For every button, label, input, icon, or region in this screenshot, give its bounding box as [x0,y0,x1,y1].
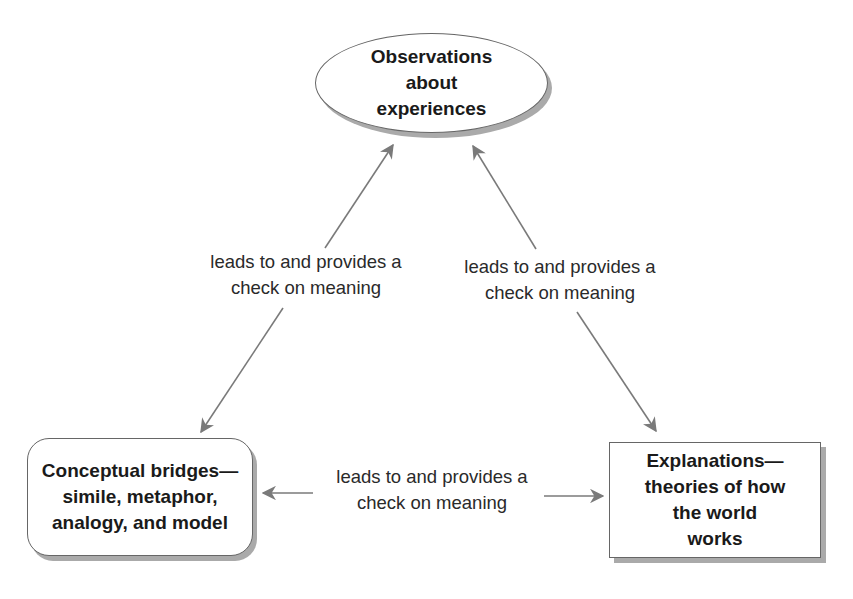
arrow-right-down [577,312,656,431]
node-text-line: Conceptual bridges— [42,458,238,484]
edge-label-bottom: leads to and provides a check on meaning [312,464,552,516]
edge-label-line: check on meaning [440,280,680,306]
node-observations: Observations about experiences [315,33,548,133]
node-text-line: about [406,70,458,96]
edge-label-line: leads to and provides a [186,249,426,275]
node-explanations: Explanations— theories of how the world … [609,442,821,558]
node-text-line: Explanations— [646,448,783,474]
edge-label-left: leads to and provides a check on meaning [186,249,426,301]
node-text-line: Observations [371,44,492,70]
edge-label-line: leads to and provides a [312,464,552,490]
edge-label-line: check on meaning [312,490,552,516]
node-text-line: the world [673,500,757,526]
node-text-line: experiences [377,96,487,122]
node-text-line: theories of how [645,474,785,500]
node-text-line: simile, metaphor, [62,484,217,510]
arrow-left-down [201,308,283,432]
node-conceptual-bridges: Conceptual bridges— simile, metaphor, an… [27,438,253,556]
edge-label-line: leads to and provides a [440,254,680,280]
node-text-line: works [688,526,743,552]
edge-label-right: leads to and provides a check on meaning [440,254,680,306]
edge-label-line: check on meaning [186,275,426,301]
arrow-left-up [325,145,393,248]
node-text-line: analogy, and model [52,510,228,536]
arrow-right-up [473,146,536,249]
